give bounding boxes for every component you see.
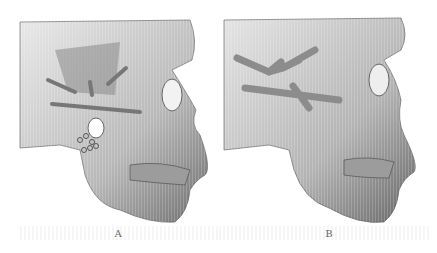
panel-label-a: A — [108, 228, 128, 239]
skull-render-a — [0, 0, 218, 253]
panel-label-b: B — [319, 228, 339, 239]
skull-render-b — [219, 0, 437, 253]
panel-a: A — [0, 0, 218, 253]
panel-b: B — [219, 0, 437, 253]
